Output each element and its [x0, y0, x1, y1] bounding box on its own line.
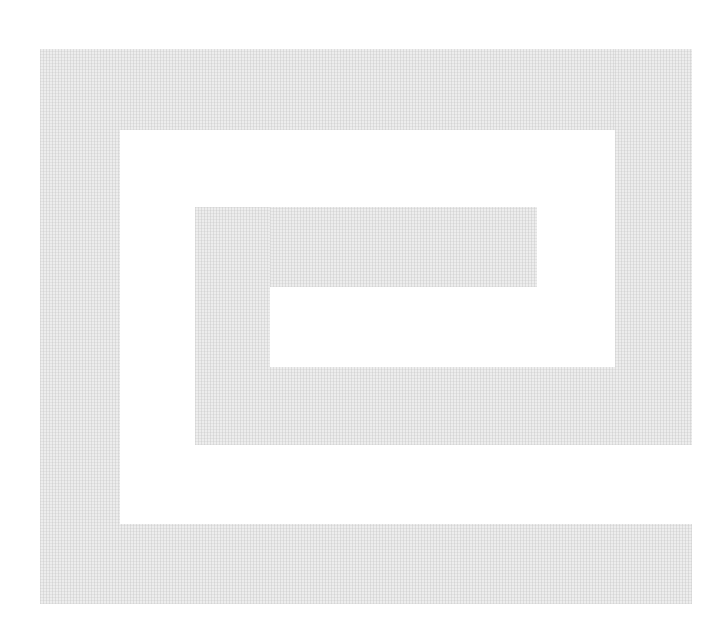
logo-outer-bottom-bar: [40, 524, 692, 604]
logo-outer-top-bar: [40, 49, 692, 130]
spiral-logo-mark: spiral-e-mark: [0, 0, 727, 639]
logo-outer-left-bar: [40, 49, 120, 604]
logo-inner-bottom-bar: [195, 367, 692, 445]
